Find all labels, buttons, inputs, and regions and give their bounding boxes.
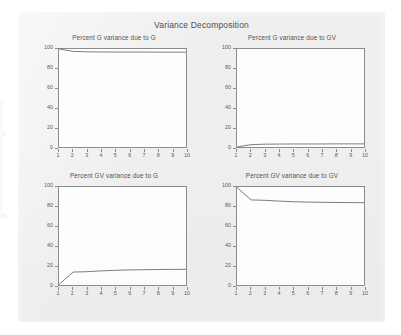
y-axis-tick-label: 80	[211, 65, 231, 70]
series-line	[59, 49, 186, 147]
y-axis-tick-label: 100	[211, 183, 231, 188]
x-axis-tick-label: 7	[139, 153, 149, 158]
y-axis-tick-mark	[55, 88, 58, 89]
x-axis-tick-label: 9	[346, 291, 356, 296]
chart-title: Percent G variance due to GV	[212, 34, 372, 41]
y-axis-tick-label: 20	[33, 263, 53, 268]
x-axis-tick-label: 10	[182, 153, 192, 158]
x-axis-tick-label: 2	[67, 291, 77, 296]
chart-panel-percent-g-due-to-g: Percent G variance due to G 020406080100…	[34, 34, 194, 166]
chart-panel-percent-gv-due-to-g: Percent GV variance due to G 02040608010…	[34, 172, 194, 304]
y-axis-tick-label: 20	[211, 263, 231, 268]
chart-title: Percent G variance due to G	[34, 34, 194, 41]
x-axis-tick-label: 3	[82, 153, 92, 158]
y-axis-tick-label: 80	[33, 203, 53, 208]
y-axis-tick-mark	[55, 226, 58, 227]
x-axis-tick-label: 9	[168, 153, 178, 158]
series-line	[237, 187, 364, 285]
y-axis-tick-label: 60	[211, 85, 231, 90]
x-axis-tick-label: 3	[260, 153, 270, 158]
y-axis-tick-mark	[55, 108, 58, 109]
page-background: Variance Decomposition Percent G varianc…	[0, 0, 401, 335]
y-axis-tick-label: 80	[33, 65, 53, 70]
y-axis-tick-label: 40	[211, 243, 231, 248]
plot-area	[236, 186, 365, 286]
y-axis-tick-label: 0	[211, 145, 231, 150]
series-line	[59, 187, 186, 285]
y-axis-tick-label: 0	[33, 283, 53, 288]
y-axis-tick-label: 20	[33, 125, 53, 130]
x-axis-tick-label: 4	[96, 291, 106, 296]
series-line	[237, 49, 364, 147]
figure-panel: Variance Decomposition Percent G varianc…	[18, 12, 385, 322]
y-axis-tick-mark	[55, 206, 58, 207]
y-axis-tick-label: 60	[33, 85, 53, 90]
x-axis-tick-label: 7	[139, 291, 149, 296]
x-axis-tick-label: 8	[153, 153, 163, 158]
x-axis-tick-label: 9	[346, 153, 356, 158]
x-axis-tick-label: 9	[168, 291, 178, 296]
y-axis-tick-mark	[233, 266, 236, 267]
y-axis-tick-mark	[233, 128, 236, 129]
x-axis-tick-label: 4	[274, 291, 284, 296]
x-axis-tick-label: 6	[303, 291, 313, 296]
x-axis-tick-label: 5	[288, 153, 298, 158]
y-axis-tick-label: 40	[211, 105, 231, 110]
scan-artifact	[2, 214, 7, 218]
y-axis-tick-label: 60	[33, 223, 53, 228]
y-axis-tick-label: 60	[211, 223, 231, 228]
x-axis-tick-label: 5	[110, 291, 120, 296]
y-axis-tick-mark	[55, 246, 58, 247]
x-axis-tick-label: 1	[231, 291, 241, 296]
scan-artifact	[0, 100, 3, 220]
x-axis-tick-label: 2	[67, 153, 77, 158]
x-axis-tick-label: 6	[125, 291, 135, 296]
y-axis-tick-label: 20	[211, 125, 231, 130]
x-axis-tick-label: 1	[231, 153, 241, 158]
x-axis-tick-label: 10	[182, 291, 192, 296]
plot-area	[58, 186, 187, 286]
chart-panel-percent-g-due-to-gv: Percent G variance due to GV 02040608010…	[212, 34, 372, 166]
y-axis-tick-mark	[233, 88, 236, 89]
y-axis-tick-mark	[233, 108, 236, 109]
x-axis-tick-label: 3	[82, 291, 92, 296]
y-axis-tick-label: 100	[33, 45, 53, 50]
y-axis-tick-mark	[55, 68, 58, 69]
x-axis-tick-label: 4	[96, 153, 106, 158]
y-axis-tick-mark	[55, 186, 58, 187]
y-axis-tick-mark	[233, 226, 236, 227]
x-axis-tick-label: 6	[303, 153, 313, 158]
plot-area	[58, 48, 187, 148]
x-axis-tick-label: 10	[360, 291, 370, 296]
y-axis-tick-mark	[233, 206, 236, 207]
y-axis-tick-label: 80	[211, 203, 231, 208]
x-axis-tick-label: 8	[153, 291, 163, 296]
y-axis-tick-mark	[233, 246, 236, 247]
x-axis-tick-label: 8	[331, 153, 341, 158]
y-axis-tick-label: 100	[211, 45, 231, 50]
x-axis-tick-label: 3	[260, 291, 270, 296]
x-axis-tick-label: 8	[331, 291, 341, 296]
y-axis-tick-mark	[55, 48, 58, 49]
x-axis-tick-label: 6	[125, 153, 135, 158]
x-axis-tick-label: 2	[245, 291, 255, 296]
x-axis-tick-label: 4	[274, 153, 284, 158]
x-axis-tick-label: 1	[53, 153, 63, 158]
plot-area	[236, 48, 365, 148]
x-axis-tick-label: 2	[245, 153, 255, 158]
y-axis-tick-label: 40	[33, 243, 53, 248]
y-axis-tick-label: 0	[211, 283, 231, 288]
x-axis-tick-label: 10	[360, 153, 370, 158]
x-axis-tick-label: 5	[110, 153, 120, 158]
chart-panel-percent-gv-due-to-gv: Percent GV variance due to GV 0204060801…	[212, 172, 372, 304]
y-axis-tick-label: 100	[33, 183, 53, 188]
x-axis-tick-label: 7	[317, 153, 327, 158]
scan-artifact	[2, 132, 7, 136]
y-axis-tick-mark	[233, 48, 236, 49]
chart-title: Percent GV variance due to G	[34, 172, 194, 179]
y-axis-tick-label: 0	[33, 145, 53, 150]
y-axis-tick-mark	[55, 266, 58, 267]
x-axis-tick-label: 5	[288, 291, 298, 296]
y-axis-tick-label: 40	[33, 105, 53, 110]
x-axis-tick-label: 1	[53, 291, 63, 296]
